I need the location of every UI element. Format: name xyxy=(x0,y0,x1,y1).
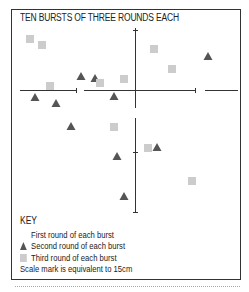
triangle-marker-icon xyxy=(77,72,86,80)
triangle-marker-icon xyxy=(31,93,40,101)
square-marker-icon xyxy=(46,82,54,90)
triangle-marker-icon xyxy=(120,192,129,200)
square-marker-icon xyxy=(144,144,152,152)
bottom-edge-text-fragment xyxy=(15,286,240,289)
key-heading: KEY xyxy=(20,215,132,227)
triangle-marker-icon xyxy=(204,52,213,60)
square-marker-icon xyxy=(38,41,46,49)
triangle-marker-icon xyxy=(67,122,76,130)
square-marker-icon xyxy=(150,45,158,53)
scale-note: Scale mark is equivalent to 15cm xyxy=(20,264,132,276)
axes xyxy=(20,28,238,213)
square-marker-icon xyxy=(120,75,128,83)
triangle-marker-icon xyxy=(20,242,27,250)
square-marker-icon xyxy=(20,254,27,262)
square-marker-icon xyxy=(168,65,176,73)
triangle-marker-icon xyxy=(113,152,122,160)
blank-marker-icon xyxy=(20,231,29,240)
data-points xyxy=(26,35,213,200)
triangle-marker-icon xyxy=(52,99,61,107)
square-marker-icon xyxy=(26,35,34,43)
square-marker-icon xyxy=(188,177,196,185)
triangle-marker-icon xyxy=(110,92,119,100)
key-item-first: First round of each burst xyxy=(20,230,132,242)
key-item-third: Third round of each burst xyxy=(20,253,132,265)
square-marker-icon xyxy=(110,123,118,131)
triangle-marker-icon xyxy=(153,143,162,151)
key-legend: KEY First round of each burst Second rou… xyxy=(20,215,132,276)
key-item-second: Second round of each burst xyxy=(20,241,132,253)
square-marker-icon xyxy=(96,79,104,87)
